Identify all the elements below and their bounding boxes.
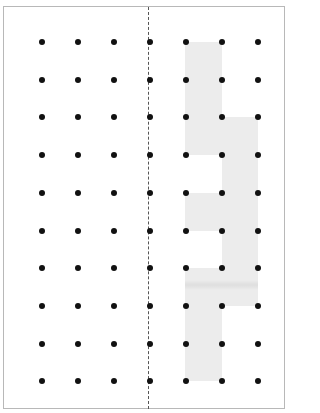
grid-dot xyxy=(255,152,261,158)
grid-dot xyxy=(147,341,153,347)
grid-dot xyxy=(39,265,45,271)
grid-dot xyxy=(39,77,45,83)
grid-dot xyxy=(183,341,189,347)
grid-dot xyxy=(255,303,261,309)
grid-dot xyxy=(111,152,117,158)
grid-dot xyxy=(219,378,225,384)
grid-dot xyxy=(111,378,117,384)
grid-dot xyxy=(255,341,261,347)
grid-dot xyxy=(111,341,117,347)
grid-dot xyxy=(255,190,261,196)
dashed-divider-line xyxy=(148,7,149,409)
grid-dot xyxy=(39,378,45,384)
grid-dot xyxy=(183,39,189,45)
grid-dot xyxy=(147,77,153,83)
grid-dot xyxy=(147,303,153,309)
grid-dot xyxy=(255,39,261,45)
grid-dot xyxy=(75,303,81,309)
grid-dot xyxy=(183,228,189,234)
grid-dot xyxy=(39,39,45,45)
grid-dot xyxy=(255,228,261,234)
grid-dot xyxy=(39,228,45,234)
grid-dot xyxy=(75,190,81,196)
grid-dot xyxy=(183,77,189,83)
grid-dot xyxy=(75,378,81,384)
grid-dot xyxy=(183,378,189,384)
grid-dot xyxy=(147,152,153,158)
grid-dot xyxy=(255,378,261,384)
grid-dot xyxy=(147,265,153,271)
grid-dot xyxy=(147,228,153,234)
grid-dot xyxy=(147,190,153,196)
grid-dot xyxy=(147,378,153,384)
grid-dot xyxy=(255,77,261,83)
grid-dot xyxy=(183,114,189,120)
grid-dot xyxy=(183,190,189,196)
grid-dot xyxy=(183,303,189,309)
grid-dot xyxy=(75,265,81,271)
grid-dot xyxy=(219,152,225,158)
grid-dot xyxy=(39,341,45,347)
grid-dot xyxy=(219,39,225,45)
grid-dot xyxy=(75,228,81,234)
grid-dot xyxy=(75,77,81,83)
grid-dot xyxy=(255,114,261,120)
grid-dot xyxy=(219,303,225,309)
grid-dot xyxy=(219,265,225,271)
grid-dot xyxy=(147,39,153,45)
shaded-cell xyxy=(222,117,258,306)
grid-dot xyxy=(111,114,117,120)
grid-dot xyxy=(183,152,189,158)
grid-dot xyxy=(219,77,225,83)
grid-dot xyxy=(75,341,81,347)
grid-dot xyxy=(111,190,117,196)
grid-dot xyxy=(39,114,45,120)
grid-dot xyxy=(219,228,225,234)
shaded-cell xyxy=(185,42,222,155)
grid-dot xyxy=(39,190,45,196)
grid-dot xyxy=(111,77,117,83)
grid-dot xyxy=(75,114,81,120)
shadow-streak xyxy=(185,280,258,290)
grid-dot xyxy=(39,303,45,309)
grid-dot xyxy=(219,114,225,120)
grid-dot xyxy=(255,265,261,271)
shaded-cell xyxy=(185,193,222,231)
grid-dot xyxy=(39,152,45,158)
grid-dot xyxy=(111,303,117,309)
grid-dot xyxy=(183,265,189,271)
grid-dot xyxy=(147,114,153,120)
grid-dot xyxy=(219,341,225,347)
grid-dot xyxy=(111,228,117,234)
grid-dot xyxy=(75,39,81,45)
grid-dot xyxy=(111,265,117,271)
grid-dot xyxy=(219,190,225,196)
grid-dot xyxy=(111,39,117,45)
grid-dot xyxy=(75,152,81,158)
